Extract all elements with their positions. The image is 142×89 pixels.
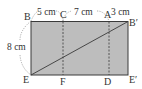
measurement-CA: 7 cm [74,7,93,17]
dimension-arc-BE [20,21,31,40]
label-point-E: E [23,74,29,85]
measurement-AB-prime: 3 cm [111,7,130,17]
folded-rectangle-diagram: B C A B′ E F D E′ 5 cm 7 cm 3 cm 8 cm [0,0,142,89]
dimension-arc-BE-lower [20,55,31,75]
measurement-BC: 5 cm [37,7,56,17]
label-point-C: C [60,9,67,20]
label-point-B-prime: B′ [129,17,138,28]
label-point-F: F [60,76,66,87]
measurement-BE: 8 cm [7,42,26,52]
label-point-B: B [24,11,31,22]
label-point-D: D [104,76,111,87]
label-point-E-prime: E′ [129,74,137,85]
